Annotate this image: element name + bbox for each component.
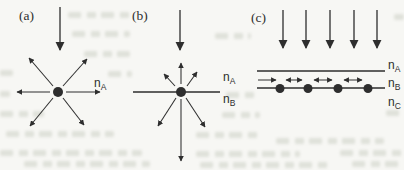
refractive-index-label-b-nA: nA: [223, 71, 235, 86]
refractive-index-label-c-nB: nB: [388, 77, 400, 92]
scattered-wave-arrow-down-right: [186, 98, 205, 127]
scatterer-dot: [334, 84, 343, 93]
refractive-index-label-a-nA: nA: [94, 77, 106, 92]
panel-c-figure: [257, 10, 385, 93]
panel-c-label: (c): [251, 11, 266, 25]
scatterer-dot: [176, 87, 186, 97]
scatterer-dot: [304, 84, 313, 93]
refractive-index-label-c-nA: nA: [388, 59, 400, 74]
scattered-wave-arrow-up-left: [29, 58, 53, 86]
scattered-wave-arrow-down-right: [63, 98, 84, 125]
scattered-wave-arrow-down-left: [158, 98, 176, 126]
scattered-wave-arrow-up-right: [63, 59, 87, 86]
scattered-wave-arrow-down-left: [30, 98, 53, 126]
scanned-figure-page: (a) (b) (c) nA nA nB nA nB nC: [0, 0, 404, 170]
panel-a-figure: [17, 7, 100, 126]
scattered-wave-arrow-up-right: [187, 72, 197, 86]
panel-b-figure: [133, 10, 220, 161]
scatterer-dot: [53, 87, 63, 97]
scattered-wave-arrow-up-left: [164, 74, 175, 86]
scatterer-dot: [364, 84, 373, 93]
panel-a-label: (a): [19, 9, 34, 23]
scatterer-dot: [276, 84, 285, 93]
panel-b-label: (b): [132, 9, 148, 23]
refractive-index-label-b-nB: nB: [223, 93, 235, 108]
figure-line-art: [0, 0, 404, 170]
refractive-index-label-c-nC: nC: [388, 96, 401, 111]
